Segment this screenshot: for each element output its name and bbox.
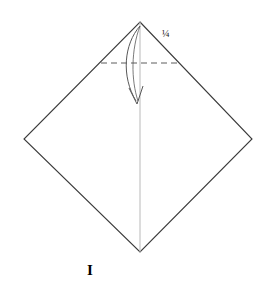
paper-square-outline (24, 22, 252, 252)
diagram-canvas (0, 0, 268, 295)
step-number-label: I (74, 262, 106, 279)
quarter-fraction-label: ¼ (162, 28, 188, 40)
origami-figure: ¼ I (0, 0, 268, 295)
